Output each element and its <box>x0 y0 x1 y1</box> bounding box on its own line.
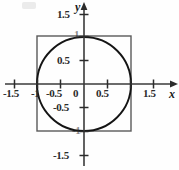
y-axis-arrow-icon <box>81 2 88 10</box>
math-figure-unit-circle-in-square: -1.5 -1 -0.5 0 0.5 1.5 1.5 1 0.5 -0.5 -1… <box>0 0 179 170</box>
x-tick-label--1.5: -1.5 <box>3 88 19 99</box>
plot-canvas <box>0 0 179 170</box>
x-tick-label-0.5: 0.5 <box>96 88 109 99</box>
y-tick-label--0.5: -0.5 <box>53 102 69 113</box>
y-tick-label--1: -1 <box>72 125 80 136</box>
x-tick-label--1: -1 <box>31 88 39 99</box>
y-tick-label-1: 1 <box>74 29 79 40</box>
x-axis-label: x <box>169 88 175 100</box>
x-tick-label-1.5: 1.5 <box>143 88 156 99</box>
y-tick-label-0.5: 0.5 <box>57 55 70 66</box>
y-tick-label-1.5: 1.5 <box>57 9 70 20</box>
y-axis-label: y <box>75 1 80 13</box>
y-tick-label--1.5: -1.5 <box>53 150 69 161</box>
origin-label: 0 <box>73 88 78 99</box>
x-tick-label--0.5: -0.5 <box>46 88 62 99</box>
